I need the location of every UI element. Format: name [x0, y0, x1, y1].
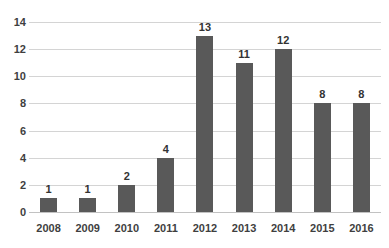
- x-tick-label: 2008: [29, 216, 68, 240]
- bar: [79, 198, 96, 212]
- x-tick-label: 2014: [264, 216, 303, 240]
- y-tick-label: 6: [0, 125, 26, 136]
- y-tick-label: 14: [0, 17, 26, 28]
- bar-slot: 12: [264, 22, 303, 212]
- bar-value-label: 8: [303, 89, 342, 100]
- bar-value-label: 11: [225, 49, 264, 60]
- bar-slot: 13: [185, 22, 224, 212]
- y-tick-label: 2: [0, 179, 26, 190]
- bar-series: 112413111288: [29, 22, 381, 212]
- bar: [314, 103, 331, 212]
- y-axis: 02468101214: [0, 0, 26, 248]
- y-tick-label: 0: [0, 207, 26, 218]
- bar-value-label: 1: [68, 184, 107, 195]
- x-tick-label: 2016: [342, 216, 381, 240]
- bar-slot: 2: [107, 22, 146, 212]
- x-tick-label: 2009: [68, 216, 107, 240]
- bar: [275, 49, 292, 212]
- x-tick-label: 2011: [146, 216, 185, 240]
- bar: [236, 63, 253, 212]
- bar: [157, 158, 174, 212]
- x-tick-label: 2015: [303, 216, 342, 240]
- bar-value-label: 1: [29, 184, 68, 195]
- bar-slot: 4: [146, 22, 185, 212]
- x-tick-label: 2010: [107, 216, 146, 240]
- bar: [118, 185, 135, 212]
- bar: [196, 36, 213, 212]
- bar-value-label: 12: [264, 35, 303, 46]
- x-tick-label: 2013: [225, 216, 264, 240]
- y-tick-label: 12: [0, 44, 26, 55]
- bar-value-label: 4: [146, 144, 185, 155]
- bar-slot: 11: [225, 22, 264, 212]
- bar: [353, 103, 370, 212]
- bar-value-label: 8: [342, 89, 381, 100]
- y-tick-label: 10: [0, 71, 26, 82]
- bar-slot: 1: [68, 22, 107, 212]
- bar-slot: 8: [342, 22, 381, 212]
- x-axis: 200820092010201120122013201420152016: [29, 216, 381, 240]
- x-tick-label: 2012: [185, 216, 224, 240]
- bar-value-label: 2: [107, 171, 146, 182]
- y-tick-label: 4: [0, 152, 26, 163]
- bar-value-label: 13: [185, 22, 224, 33]
- bar-slot: 1: [29, 22, 68, 212]
- plot-area: 112413111288: [29, 22, 381, 212]
- bar-slot: 8: [303, 22, 342, 212]
- bar-chart: 02468101214 112413111288 200820092010201…: [0, 0, 389, 248]
- y-tick-label: 8: [0, 98, 26, 109]
- axis-baseline: [29, 212, 381, 213]
- bar: [40, 198, 57, 212]
